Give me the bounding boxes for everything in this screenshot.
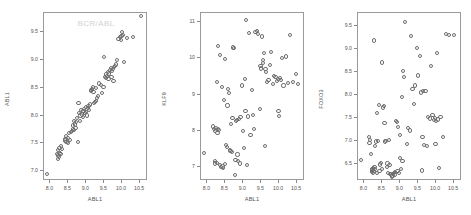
x-tick-mark [260,180,261,183]
data-point [235,152,239,156]
data-point [387,163,391,167]
scatter-panel-2: KLF9 ABL1 78910118.08.59.09.510.010.5 [157,0,314,215]
x-tick-mark [85,180,86,183]
data-point [87,108,91,112]
data-point [122,60,126,64]
data-point [260,34,264,38]
y-tick-mark [197,21,200,22]
data-point [263,144,267,148]
data-point [399,167,403,171]
x-tick-label: 10.5 [448,185,458,191]
y-tick-mark [354,117,357,118]
data-point [246,114,250,118]
data-point [233,173,237,177]
data-point [288,33,292,37]
data-point [416,73,420,77]
data-point [76,101,80,105]
x-tick-label: 10.5 [291,185,301,191]
x-tick-mark [381,180,382,183]
x-tick-mark [49,180,50,183]
data-point [230,150,234,154]
y-tick-label: 8.0 [345,91,352,97]
data-point [405,142,409,146]
panel-2-x-axis-label: ABL1 [200,196,304,202]
data-point [262,51,266,55]
x-tick-label: 10.0 [430,185,440,191]
data-point [402,75,406,79]
data-point [372,165,376,169]
data-point [252,127,256,131]
panel-3-y-axis-label: FOXO3 [318,84,324,114]
y-tick-mark [354,48,357,49]
data-point [68,138,72,142]
x-tick-mark [435,180,436,183]
data-point [111,79,115,83]
x-tick-label: 8.5 [64,185,71,191]
y-tick-label: 7.5 [345,114,352,120]
data-point [376,139,380,143]
data-point [291,80,295,84]
data-point [401,69,405,73]
y-tick-label: 7.0 [345,137,352,143]
data-point [241,129,245,133]
y-tick-label: 8.5 [31,84,38,90]
y-tick-mark [197,57,200,58]
data-point [202,151,206,155]
data-point [102,55,106,59]
x-tick-label: 8.5 [221,185,228,191]
x-tick-label: 9.5 [257,185,264,191]
data-point [225,103,229,107]
data-point [277,114,281,118]
panel-2-y-axis-label: KLF9 [161,84,167,114]
data-point [242,146,246,150]
data-point [395,120,399,124]
data-point [441,135,445,139]
x-tick-label: 8.0 [46,185,53,191]
data-point [247,31,251,35]
data-point [415,46,419,50]
data-point [400,95,404,99]
data-point [221,166,225,170]
data-point [216,44,220,48]
data-point [217,128,221,132]
data-point [266,78,270,82]
data-point [438,115,442,119]
y-tick-label: 7.5 [31,139,38,145]
y-tick-label: 9.5 [345,22,352,28]
x-tick-mark [453,180,454,183]
x-tick-mark [278,180,279,183]
x-tick-mark [242,180,243,183]
scatter-panel-3: FOXO3 ABL1 6.57.07.58.08.59.09.58.08.59.… [314,0,471,215]
data-point [238,115,242,119]
data-point [73,126,77,130]
x-tick-mark [139,180,140,183]
data-point [284,54,288,58]
data-point [435,51,439,55]
data-point [372,38,376,42]
panel-3-points [358,13,460,179]
y-tick-label: 7.0 [31,167,38,173]
y-tick-label: 6.5 [345,160,352,166]
data-point [125,36,129,40]
x-tick-label: 8.0 [360,185,367,191]
data-point [238,161,242,165]
panel-2-plot-area [200,12,304,180]
figure-canvas: ABL1 BCR/ABL ABL1 7.07.58.08.59.09.58.08… [0,0,471,215]
x-tick-mark [399,180,400,183]
scatter-panel-1: ABL1 BCR/ABL ABL1 7.07.58.08.59.09.58.08… [0,0,157,215]
x-tick-mark [103,180,104,183]
x-tick-mark [296,180,297,183]
y-tick-mark [354,94,357,95]
data-point [409,34,413,38]
panel-1-x-axis-label: ABL1 [43,196,147,202]
data-point [286,81,290,85]
x-tick-mark [224,180,225,183]
y-tick-mark [40,142,43,143]
y-tick-mark [40,31,43,32]
data-point [243,77,247,81]
data-point [85,113,89,117]
data-point [45,172,49,176]
data-point [413,83,417,87]
data-point [218,53,222,57]
x-tick-label: 9.0 [82,185,89,191]
